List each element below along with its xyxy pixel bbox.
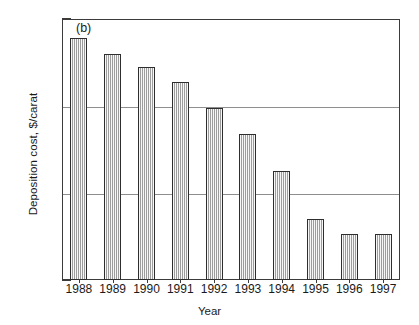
bar-1994 — [273, 171, 290, 280]
bar-1988 — [70, 38, 87, 280]
x-tick-label-1996: 1996 — [332, 283, 366, 295]
x-tick-label-1995: 1995 — [299, 283, 333, 295]
x-tick-label-1991: 1991 — [163, 283, 197, 295]
bar-1997 — [375, 234, 392, 280]
bar-1991 — [172, 82, 189, 280]
x-tick-label-1997: 1997 — [366, 283, 400, 295]
figure-container: Deposition cost, $/carat 1000100101 (b) … — [0, 0, 419, 325]
panel-label: (b) — [76, 21, 91, 35]
bar-1993 — [239, 134, 256, 280]
x-tick-label-1990: 1990 — [130, 283, 164, 295]
x-tick-label-1994: 1994 — [265, 283, 299, 295]
x-tick-label-1993: 1993 — [231, 283, 265, 295]
x-tick-label-1988: 1988 — [62, 283, 96, 295]
bar-1990 — [138, 67, 155, 280]
bar-1995 — [307, 219, 324, 280]
x-tick-label-1989: 1989 — [96, 283, 130, 295]
x-tick-label-1992: 1992 — [197, 283, 231, 295]
bar-1996 — [341, 234, 358, 280]
x-axis-title: Year — [0, 305, 419, 317]
bar-1989 — [104, 54, 121, 280]
bar-1992 — [206, 108, 223, 280]
